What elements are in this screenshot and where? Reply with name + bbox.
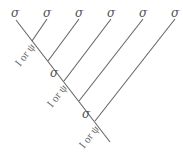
edge-label-3: I or ψ (76, 123, 101, 150)
edge-label-2: I or ψ (44, 82, 69, 109)
top-label-2: σ (43, 6, 52, 20)
node-label-2: σ (82, 107, 91, 121)
branch-line-3 (48, 19, 79, 61)
edge-label-1: I or ψ (12, 41, 37, 68)
branch-line-6 (95, 19, 175, 121)
top-label-6: σ (171, 6, 180, 20)
node-label-1: σ (50, 66, 59, 80)
top-label-1: σ (11, 6, 20, 20)
branch-line-2 (32, 19, 47, 41)
branch-line-5 (79, 19, 143, 101)
branch-line-4 (64, 19, 111, 81)
fusion-tree-diagram: σ σ σ σ σ σ σ σ I or ψ I or ψ I or ψ (0, 0, 183, 166)
top-label-5: σ (139, 6, 148, 20)
top-label-3: σ (75, 6, 84, 20)
top-label-4: σ (107, 6, 116, 20)
